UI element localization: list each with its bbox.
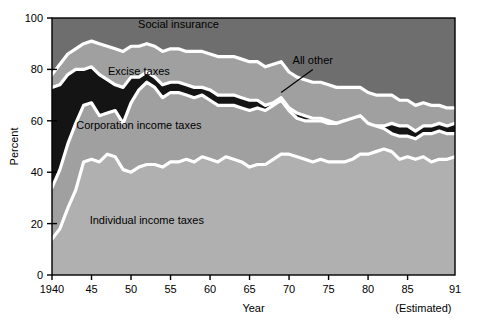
x-axis-title: Year bbox=[242, 302, 265, 314]
tax-sources-area-chart: 020406080100194045505560657075808591Perc… bbox=[0, 0, 477, 322]
y-tick-label: 100 bbox=[25, 12, 43, 24]
series-label-corporation-income-taxes: Corporation income taxes bbox=[76, 119, 202, 131]
estimated-note: (Estimated) bbox=[395, 302, 451, 314]
x-tick-label: 65 bbox=[243, 283, 255, 295]
series-label-social-insurance: Social insurance bbox=[138, 18, 219, 30]
x-tick-label: 85 bbox=[401, 283, 413, 295]
x-tick-label: 1940 bbox=[40, 283, 64, 295]
x-tick-label: 91 bbox=[449, 283, 461, 295]
chart-root: 020406080100194045505560657075808591Perc… bbox=[0, 0, 477, 322]
y-tick-label: 40 bbox=[31, 166, 43, 178]
x-tick-label: 75 bbox=[322, 283, 334, 295]
x-tick-label: 55 bbox=[164, 283, 176, 295]
x-tick-label: 60 bbox=[204, 283, 216, 295]
x-tick-label: 80 bbox=[362, 283, 374, 295]
y-tick-label: 80 bbox=[31, 63, 43, 75]
series-label-excise-taxes: Excise taxes bbox=[108, 65, 170, 77]
y-tick-label: 60 bbox=[31, 115, 43, 127]
series-label-individual-income-taxes: Individual income taxes bbox=[90, 214, 205, 226]
series-label-all-other: All other bbox=[293, 54, 334, 66]
x-tick-label: 70 bbox=[283, 283, 295, 295]
x-tick-label: 50 bbox=[125, 283, 137, 295]
y-tick-label: 20 bbox=[31, 218, 43, 230]
y-tick-label: 0 bbox=[37, 269, 43, 281]
y-axis-title: Percent bbox=[8, 128, 20, 166]
x-tick-label: 45 bbox=[85, 283, 97, 295]
